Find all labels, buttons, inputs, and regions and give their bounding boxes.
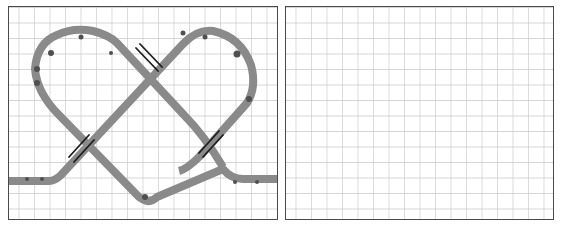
track-diagram — [9, 7, 278, 220]
grid-background — [286, 7, 554, 220]
track-panel — [8, 6, 278, 220]
empty-grid — [286, 7, 554, 220]
empty-panel — [285, 6, 554, 220]
